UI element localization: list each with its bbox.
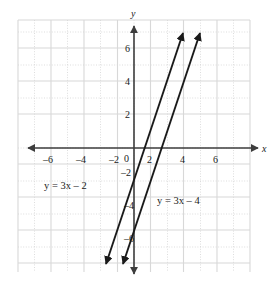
y-axis-label: y <box>131 9 135 19</box>
y-tick-label-neg2: –2 <box>121 168 131 178</box>
x-tick-label-neg2: –2 <box>109 155 119 165</box>
y-tick-label-4: 4 <box>125 77 130 87</box>
x-tick-label-neg6: –6 <box>43 155 53 165</box>
x-tick-label-4: 4 <box>180 155 185 165</box>
y-tick-label-6: 6 <box>125 44 130 54</box>
graph-figure: x y –6 –4 –2 2 4 6 0 6 4 2 –2 –4 –6 y = … <box>0 0 276 286</box>
x-tick-label-6: 6 <box>213 155 218 165</box>
x-tick-label-neg4: –4 <box>76 155 86 165</box>
y-tick-label-neg6: –6 <box>124 234 134 244</box>
origin-label: 0 <box>124 154 129 164</box>
coordinate-plane <box>0 0 276 286</box>
equation-label-line-1: y = 3x – 2 <box>44 181 87 192</box>
x-tick-label-2: 2 <box>147 155 152 165</box>
x-axis-label: x <box>262 144 266 154</box>
equation-label-line-2: y = 3x – 4 <box>157 196 200 207</box>
y-tick-label-2: 2 <box>125 110 130 120</box>
y-tick-label-neg4: –4 <box>124 201 134 211</box>
